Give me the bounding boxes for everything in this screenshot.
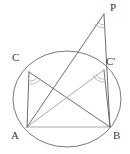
vertex-label-B: B [113, 130, 120, 141]
angle-arc-at-Cprime-outer [93, 75, 105, 82]
segment-AC [27, 72, 29, 127]
segment-AP [27, 14, 104, 127]
vertex-label-A: A [11, 130, 19, 141]
angle-arc-at-C [29, 77, 37, 81]
vertex-label-C-prime: C' [106, 56, 115, 67]
segment-PB [104, 14, 110, 127]
geometry-figure: P C C' A B [0, 0, 130, 154]
figure-canvas [0, 0, 130, 154]
vertex-label-C: C [12, 52, 19, 63]
circumcircle [13, 51, 121, 147]
vertex-label-P: P [110, 2, 116, 13]
